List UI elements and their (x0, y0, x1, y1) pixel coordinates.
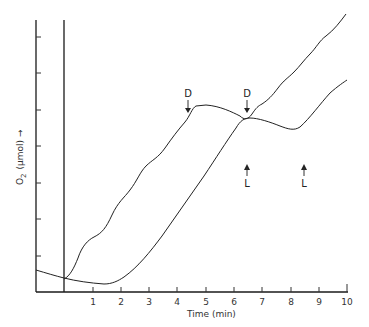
y-axis-label: O2(µmol) → (15, 129, 28, 185)
svg-text:5: 5 (203, 297, 209, 307)
svg-text:8: 8 (288, 297, 294, 307)
svg-text:2: 2 (118, 297, 124, 307)
svg-text:L: L (301, 178, 307, 189)
svg-text:L: L (244, 178, 250, 189)
y-ticks (36, 37, 41, 256)
svg-text:10: 10 (341, 297, 353, 307)
svg-text:4: 4 (174, 297, 180, 307)
x-ticks (93, 284, 347, 292)
svg-text:3: 3 (146, 297, 152, 307)
svg-text:6: 6 (231, 297, 237, 307)
svg-text:1: 1 (90, 297, 96, 307)
annotation-d1: D (184, 88, 192, 113)
svg-text:7: 7 (259, 297, 265, 307)
oxygen-evolution-chart: 1 2 3 4 5 6 7 8 9 10 Time (min) O2(µmol)… (0, 0, 369, 327)
annotation-l1: L (244, 164, 250, 189)
annotation-l2: L (301, 164, 307, 189)
svg-text:D: D (243, 88, 251, 99)
svg-text:D: D (184, 88, 192, 99)
x-axis-label: Time (min) (186, 309, 236, 319)
svg-text:O2(µmol) →: O2(µmol) → (15, 129, 28, 185)
annotation-d2: D (243, 88, 251, 113)
curve-1 (64, 14, 346, 279)
x-tick-labels: 1 2 3 4 5 6 7 8 9 10 (90, 297, 353, 307)
svg-text:9: 9 (316, 297, 322, 307)
